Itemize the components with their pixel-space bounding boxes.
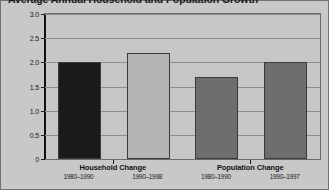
- plot-area: 00.51.01.52.02.53.0: [44, 13, 321, 160]
- x-axis-group-label: Household Change: [43, 163, 183, 172]
- y-axis-tick: [41, 87, 45, 88]
- gridline: [45, 38, 320, 39]
- bar: [127, 53, 170, 159]
- chart-figure: Average Annual Household and Population …: [0, 0, 329, 190]
- y-axis-tick-label: 1.0: [30, 107, 39, 114]
- bar: [195, 77, 238, 159]
- y-axis-tick-label: 3.0: [30, 11, 39, 18]
- bar: [264, 62, 307, 159]
- x-axis-period-label: 1990–1997: [245, 173, 325, 180]
- y-axis-tick-label: 1.5: [30, 83, 39, 90]
- y-axis-tick: [41, 14, 45, 15]
- gridline: [45, 14, 320, 15]
- y-axis-tick-label: 2.5: [30, 35, 39, 42]
- x-axis-group-tick: [113, 160, 114, 164]
- y-axis-tick: [41, 62, 45, 63]
- bar: [58, 62, 101, 159]
- y-axis-tick: [41, 135, 45, 136]
- x-axis-group-tick: [250, 160, 251, 164]
- y-axis-tick-label: 0: [35, 156, 39, 163]
- y-axis-tick: [41, 159, 45, 160]
- x-axis-group-label: Population Change: [180, 163, 320, 172]
- chart-title: Average Annual Household and Population …: [8, 0, 324, 5]
- y-axis-tick-label: 0.5: [30, 131, 39, 138]
- y-axis-tick: [41, 111, 45, 112]
- y-axis-tick-label: 2.0: [30, 59, 39, 66]
- y-axis-tick: [41, 38, 45, 39]
